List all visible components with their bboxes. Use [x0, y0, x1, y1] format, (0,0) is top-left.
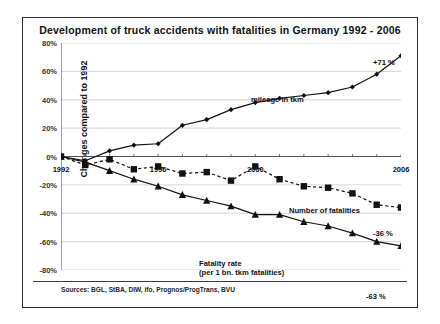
endpoint-value-label: -63 % [366, 292, 386, 301]
plot-svg [61, 43, 401, 270]
series-2 [61, 153, 401, 210]
y-tick-label: 20% [42, 124, 57, 133]
marker-diamond [326, 90, 331, 95]
marker-square [325, 185, 331, 191]
chart-frame: Development of truck accidents with fata… [22, 17, 418, 308]
y-tick-label: 80% [42, 39, 57, 48]
marker-square [301, 183, 307, 189]
source-note: Sources: BGL, StBA, DIW, ifo, Prognos/Pr… [61, 286, 235, 293]
endpoint-value-label: +71 % [373, 58, 395, 67]
marker-square [349, 190, 355, 196]
series-annotation: mileage in tkm [251, 95, 304, 104]
endpoint-value-label: -36 % [373, 229, 393, 238]
marker-diamond [204, 117, 209, 122]
plot-area [61, 43, 401, 270]
x-axis-tick-labels: 1992199620002006 [61, 165, 401, 177]
y-tick-label: 40% [42, 95, 57, 104]
series-annotation: Number of fatalities [289, 206, 360, 215]
x-tick-label: 2006 [393, 165, 410, 174]
marker-square [106, 156, 112, 162]
y-tick-label: -60% [39, 237, 57, 246]
y-tick-label: 60% [42, 67, 57, 76]
marker-diamond [107, 148, 112, 153]
y-tick-label: -40% [39, 209, 57, 218]
x-tick-label: 1996 [150, 165, 167, 174]
series-1 [61, 53, 401, 163]
marker-diamond [228, 107, 233, 112]
series-annotation: (per 1 bn. tkm fatalities) [199, 268, 284, 277]
y-tick-label: -80% [39, 266, 57, 275]
y-tick-label: 0% [46, 152, 57, 161]
marker-diamond [131, 143, 136, 148]
y-tick-label: -20% [39, 180, 57, 189]
marker-square [228, 177, 234, 183]
x-tick-label: 1992 [53, 165, 70, 174]
y-axis-tick-labels: 80%60%40%20%0%-20%-40%-60%-80% [23, 43, 57, 270]
marker-diamond [350, 84, 355, 89]
source-divider [33, 281, 407, 282]
marker-square [398, 204, 401, 210]
marker-square [374, 202, 380, 208]
x-tick-label: 2000 [247, 165, 264, 174]
chart-screenshot: Development of truck accidents with fata… [0, 0, 440, 324]
chart-title: Development of truck accidents with fata… [23, 24, 417, 36]
